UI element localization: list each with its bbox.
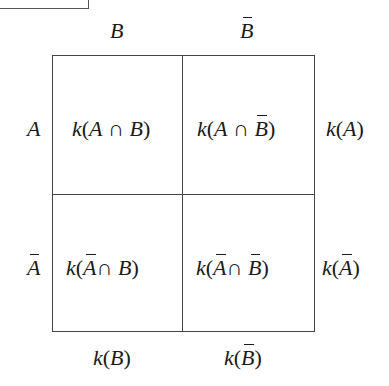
- cell-not-a-and-not-b: k(A∩ B): [196, 257, 269, 279]
- corner-frame-fragment: [0, 0, 89, 9]
- column-header-b: B: [110, 20, 123, 42]
- cell-not-a-and-b: k(A∩ B): [66, 257, 139, 279]
- cell-a-and-not-b: k(A ∩ B): [197, 118, 275, 140]
- grid-horizontal-divider: [53, 194, 314, 195]
- column-header-b-complement: B: [240, 20, 253, 42]
- row-total-a: k(A): [326, 118, 364, 140]
- row-header-a: A: [27, 118, 40, 140]
- column-total-b-complement: k(B): [224, 347, 262, 369]
- row-total-a-complement: k(A): [322, 257, 360, 279]
- column-total-b: k(B): [93, 347, 131, 369]
- contingency-grid: [52, 55, 315, 332]
- row-header-a-complement: A: [27, 257, 40, 279]
- cell-a-and-b: k(A ∩ B): [72, 118, 150, 140]
